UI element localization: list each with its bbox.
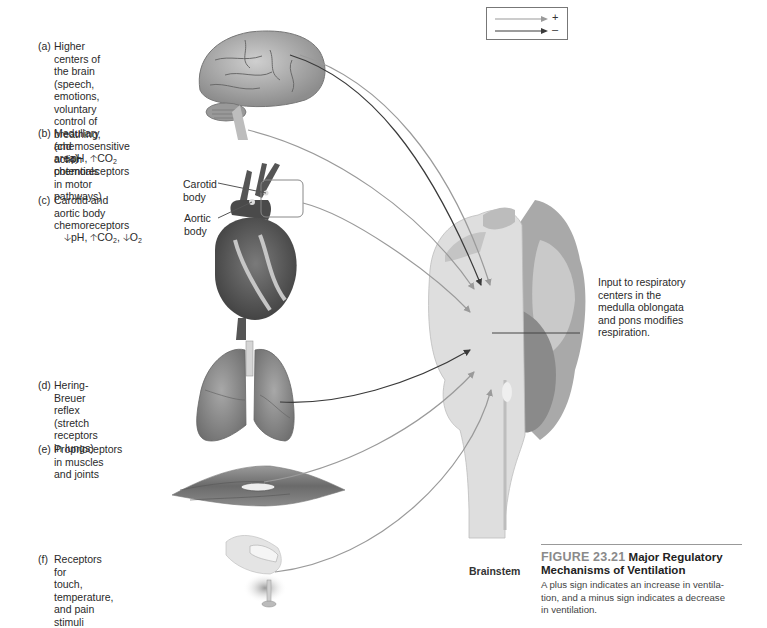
carotid-body-label: Carotid body <box>183 178 217 203</box>
label-tag: (a) <box>38 40 51 53</box>
chem-label: CO <box>97 152 113 164</box>
figure-caption: FIGURE 23.21 Major Regulatory Mechanisms… <box>541 544 753 617</box>
legend-symbol: + <box>552 11 558 23</box>
label-text: Receptors for touch, temperature, and pa… <box>54 553 114 628</box>
label-text: Higher centers of the brain (speech, emo… <box>54 40 102 203</box>
muscle-illustration <box>172 466 345 506</box>
chem-subscript: 2 <box>138 237 142 244</box>
brainstem-label: Brainstem <box>469 565 520 577</box>
chem-subscript: 2 <box>113 237 117 244</box>
chem-label: pH <box>71 231 84 243</box>
label-tag: (b) <box>38 127 51 140</box>
chem-label: CO <box>97 231 113 243</box>
chem-stimuli: 🡣pH, 🡡CO2, 🡣O2 <box>64 231 142 245</box>
caption-divider <box>541 544 742 545</box>
chem-label: O <box>130 231 138 243</box>
figure-number: FIGURE 23.21 <box>541 550 625 564</box>
figure-title-line2: Mechanisms of Ventilation <box>541 564 685 576</box>
label-text: Proprioceptors in muscles and joints <box>54 443 122 481</box>
brain-illustration <box>199 31 325 140</box>
aortic-body-label: Aortic body <box>184 212 211 237</box>
figure-title-line1: Major Regulatory <box>629 551 723 563</box>
legend: + – <box>486 7 568 40</box>
down-arrow-icon: 🡣 <box>64 153 71 164</box>
label-tag: (f) <box>38 553 48 566</box>
respiratory-centers-label: Input to respiratory centers in the medu… <box>598 276 686 339</box>
figure-description: A plus sign indicates an increase in ven… <box>541 579 753 617</box>
arrow-e <box>264 372 474 482</box>
label-text: Carotid and aortic body chemoreceptors <box>54 194 129 232</box>
lungs-illustration <box>197 341 294 441</box>
brainstem-illustration <box>429 200 586 538</box>
caption-title: FIGURE 23.21 Major Regulatory Mechanisms… <box>541 551 753 576</box>
arrow-right-icon <box>495 26 551 36</box>
legend-item-minus: – <box>495 26 561 36</box>
down-arrow-icon: 🡣 <box>64 232 71 243</box>
chem-stimuli: 🡣pH, 🡡CO2 <box>64 152 117 166</box>
chem-subscript: 2 <box>113 158 117 165</box>
label-tag: (e) <box>38 443 51 456</box>
down-arrow-icon: 🡣 <box>123 232 130 243</box>
legend-symbol: – <box>552 23 558 35</box>
arrow-right-icon <box>495 14 551 24</box>
chem-label: pH <box>71 152 84 164</box>
heart-illustration <box>215 163 297 340</box>
label-tag: (c) <box>38 194 50 207</box>
label-tag: (d) <box>38 379 51 392</box>
